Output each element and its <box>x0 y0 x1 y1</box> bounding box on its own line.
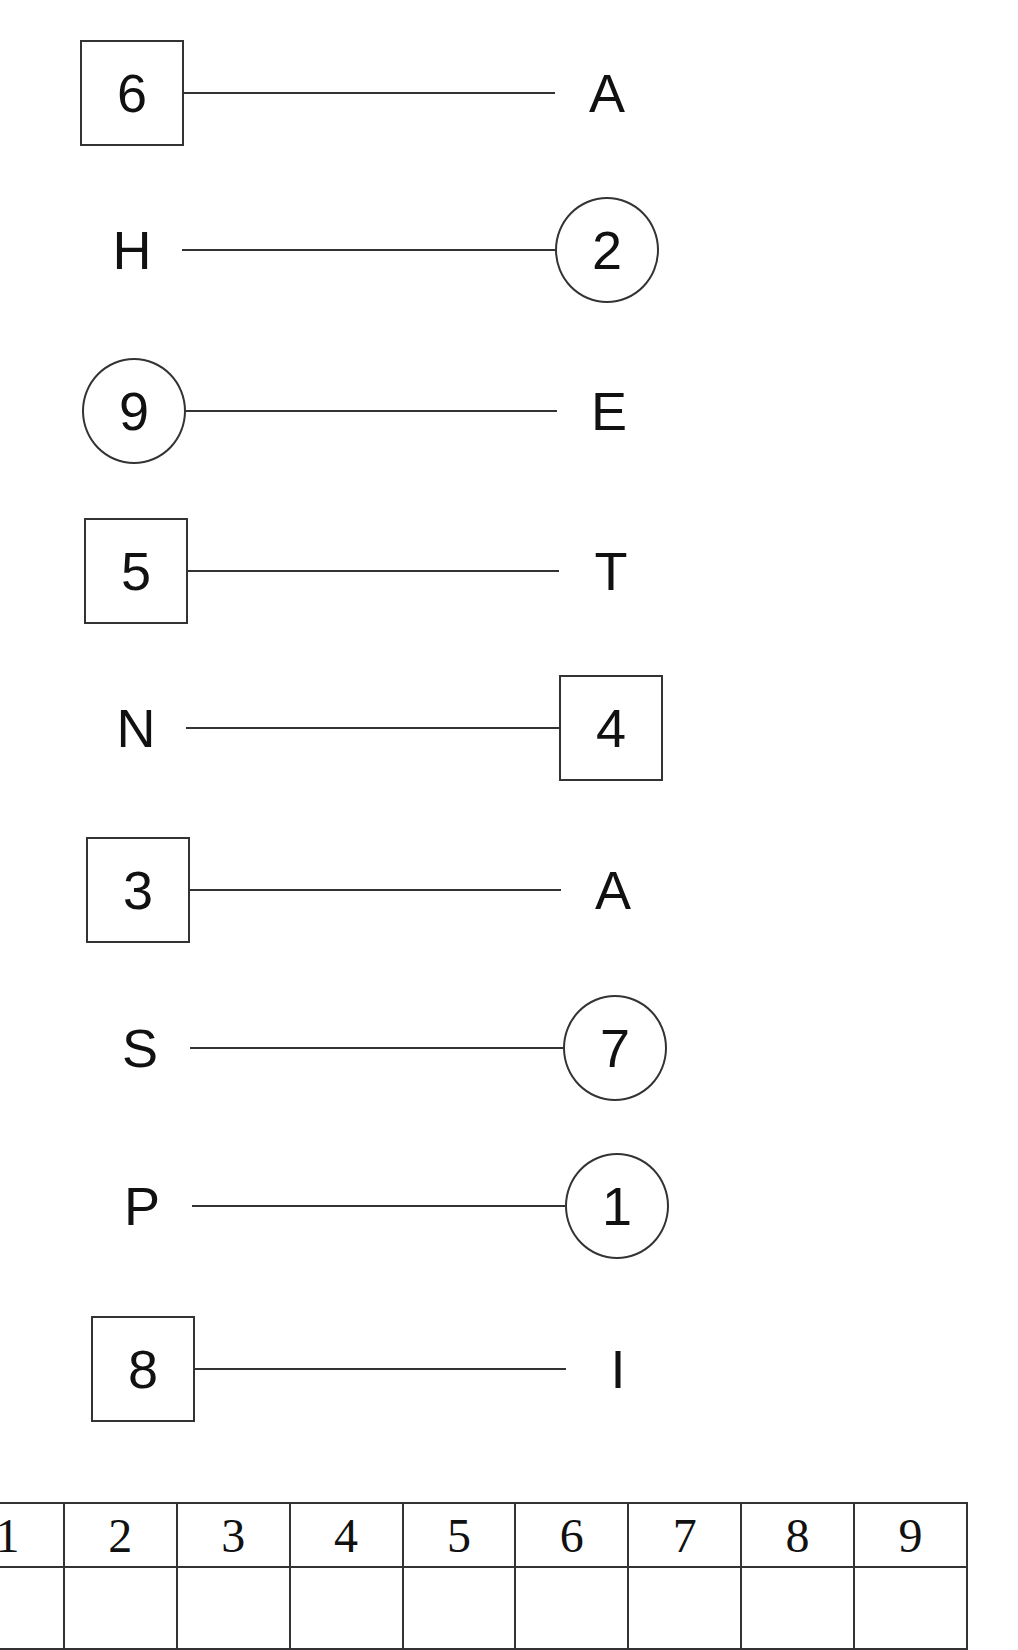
left-item-box: 5 <box>84 518 188 624</box>
match-row: 5T <box>0 518 1018 628</box>
answer-cell[interactable] <box>741 1567 854 1649</box>
match-row: 3A <box>0 837 1018 947</box>
grid-cell: 1 <box>0 1503 64 1567</box>
connector-line <box>186 570 559 572</box>
right-item-circle: 7 <box>563 995 667 1101</box>
grid-cell: 7 <box>628 1503 741 1567</box>
grid-cell: 3 <box>177 1503 290 1567</box>
left-item-circle: 9 <box>82 358 186 464</box>
left-item-box: 3 <box>86 837 190 943</box>
match-row: H2 <box>0 197 1018 307</box>
grid-cell: 6 <box>515 1503 628 1567</box>
grid-answer-row <box>0 1567 967 1649</box>
answer-cell[interactable] <box>515 1567 628 1649</box>
match-row: 9E <box>0 358 1018 468</box>
answer-cell[interactable] <box>64 1567 177 1649</box>
left-item-plain: N <box>84 675 188 781</box>
right-item-plain: I <box>566 1316 670 1422</box>
left-item-plain: S <box>88 995 192 1101</box>
right-item-box: 4 <box>559 675 663 781</box>
connector-line <box>188 889 561 891</box>
left-item-box: 6 <box>80 40 184 146</box>
right-item-plain: A <box>561 837 665 943</box>
connector-line <box>193 1368 566 1370</box>
right-item-plain: T <box>559 518 663 624</box>
left-item-box: 8 <box>91 1316 195 1422</box>
match-row: 6A <box>0 40 1018 150</box>
answer-cell[interactable] <box>177 1567 290 1649</box>
connector-line <box>192 1205 565 1207</box>
left-item-plain: H <box>80 197 184 303</box>
grid-header-row: 1 2 3 4 5 6 7 8 9 <box>0 1503 967 1567</box>
grid-cell: 9 <box>854 1503 967 1567</box>
left-item-plain: P <box>90 1153 194 1259</box>
grid-cell: 4 <box>290 1503 403 1567</box>
match-row: N4 <box>0 675 1018 785</box>
connector-line <box>182 92 555 94</box>
answer-grid: 1 2 3 4 5 6 7 8 9 <box>0 1502 968 1650</box>
answer-cell[interactable] <box>290 1567 403 1649</box>
connector-line <box>186 727 559 729</box>
match-row: P1 <box>0 1153 1018 1263</box>
connector-line <box>182 249 555 251</box>
right-item-circle: 2 <box>555 197 659 303</box>
match-row: S7 <box>0 995 1018 1105</box>
answer-cell[interactable] <box>0 1567 64 1649</box>
right-item-plain: A <box>555 40 659 146</box>
right-item-circle: 1 <box>565 1153 669 1259</box>
right-item-plain: E <box>557 358 661 464</box>
answer-cell[interactable] <box>403 1567 516 1649</box>
answer-cell[interactable] <box>628 1567 741 1649</box>
grid-cell: 2 <box>64 1503 177 1567</box>
connector-line <box>190 1047 563 1049</box>
answer-cell[interactable] <box>854 1567 967 1649</box>
match-row: 8I <box>0 1316 1018 1426</box>
grid-cell: 5 <box>403 1503 516 1567</box>
connector-line <box>184 410 557 412</box>
grid-cell: 8 <box>741 1503 854 1567</box>
